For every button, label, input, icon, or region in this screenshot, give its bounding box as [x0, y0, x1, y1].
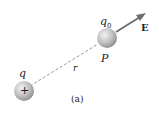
test-charge-subscript: 0 [107, 22, 111, 30]
field-vector-label: E [141, 23, 149, 33]
plus-sign-icon: + [20, 85, 29, 96]
field-arrow-shaft [116, 17, 140, 32]
distance-label: r [73, 64, 77, 73]
test-charge-sphere [97, 28, 117, 48]
test-charge-q: q [100, 15, 107, 28]
caption: (a) [71, 95, 83, 104]
test-charge-label: q0 [100, 16, 112, 30]
distance-line [30, 44, 98, 86]
point-p-label: P [101, 53, 108, 64]
source-charge-label: q [19, 68, 26, 79]
field-arrow-head [136, 13, 146, 21]
